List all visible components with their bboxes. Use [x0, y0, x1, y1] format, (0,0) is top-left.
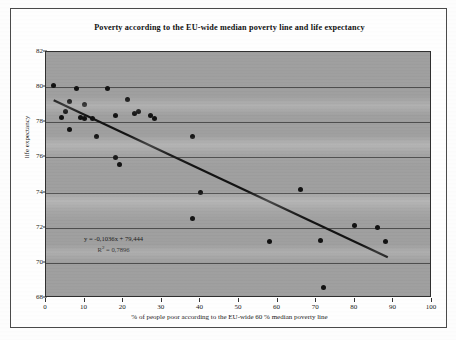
- data-point: [67, 127, 72, 132]
- x-tick-mark: [431, 298, 432, 302]
- y-tick-label: 74: [21, 188, 43, 196]
- x-tick-mark: [354, 298, 355, 302]
- x-tick-label: 60: [262, 303, 292, 311]
- data-point: [117, 162, 122, 167]
- data-point: [113, 113, 118, 118]
- x-tick-mark: [238, 298, 239, 302]
- chart-frame: Poverty according to the EU-wide median …: [10, 8, 447, 328]
- x-tick-label: 100: [416, 303, 446, 311]
- x-tick-label: 90: [377, 303, 407, 311]
- y-tick-label: 68: [21, 293, 43, 301]
- plot-area: y = -0,1036x + 79,444 R2 = 0,7896: [45, 51, 431, 297]
- data-point: [152, 116, 157, 121]
- data-point: [198, 190, 203, 195]
- x-tick-mark: [45, 298, 46, 302]
- x-tick-mark: [315, 298, 316, 302]
- data-point: [125, 97, 130, 102]
- data-point: [67, 99, 72, 104]
- y-tick-label: 70: [21, 258, 43, 266]
- x-tick-mark: [84, 298, 85, 302]
- data-point: [59, 115, 64, 120]
- x-tick-label: 20: [107, 303, 137, 311]
- data-point: [190, 134, 195, 139]
- x-tick-label: 50: [223, 303, 253, 311]
- x-axis-title: % of people poor according to the EU-wid…: [11, 313, 448, 321]
- data-point: [113, 155, 118, 160]
- x-tick-label: 70: [300, 303, 330, 311]
- chart-title: Poverty according to the EU-wide median …: [11, 23, 448, 32]
- figure-scan: Poverty according to the EU-wide median …: [0, 0, 456, 340]
- data-point: [318, 238, 323, 243]
- x-tick-mark: [161, 298, 162, 302]
- data-point: [298, 187, 303, 192]
- y-tick-label: 82: [21, 47, 43, 55]
- y-tick-label: 80: [21, 82, 43, 90]
- x-tick-mark: [199, 298, 200, 302]
- x-tick-mark: [277, 298, 278, 302]
- data-point: [94, 134, 99, 139]
- x-tick-mark: [392, 298, 393, 302]
- regression-equation: y = -0,1036x + 79,444: [84, 234, 143, 244]
- y-tick-label: 72: [21, 223, 43, 231]
- trendline: [46, 52, 430, 296]
- x-tick-label: 10: [69, 303, 99, 311]
- x-tick-label: 80: [339, 303, 369, 311]
- x-tick-mark: [122, 298, 123, 302]
- r-squared: R2 = 0,7896: [84, 244, 143, 255]
- x-tick-label: 40: [184, 303, 214, 311]
- x-tick-label: 30: [146, 303, 176, 311]
- regression-annotation: y = -0,1036x + 79,444 R2 = 0,7896: [84, 234, 143, 254]
- x-tick-label: 0: [30, 303, 60, 311]
- r-squared-value: = 0,7896: [104, 246, 129, 253]
- y-axis-title: life expectancy: [23, 97, 31, 177]
